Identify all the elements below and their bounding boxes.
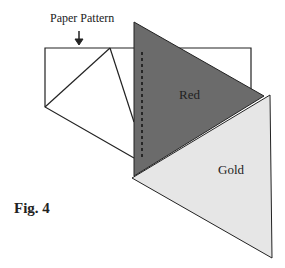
- diagram: [0, 0, 285, 268]
- figure-caption: Fig. 4: [14, 200, 50, 217]
- gold-label: Gold: [218, 162, 244, 178]
- arrow-down-icon: [75, 31, 83, 45]
- red-label: Red: [179, 87, 200, 103]
- paper-pattern-label: Paper Pattern: [50, 11, 114, 26]
